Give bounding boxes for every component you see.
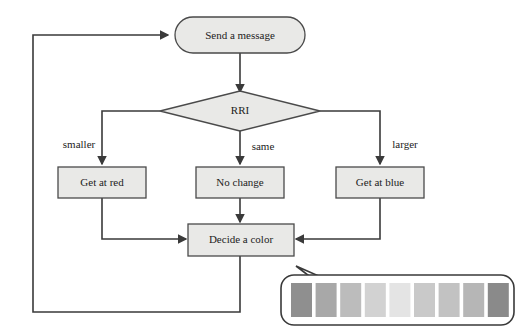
swatch-row [291,283,509,317]
color-swatch-callout [281,266,514,325]
color-swatch-7 [439,283,460,317]
node-no-change: No change [196,167,284,198]
node-no-change-label: No change [216,176,263,188]
node-get-at-blue-label: Get at blue [356,176,404,188]
color-swatch-9 [488,283,509,317]
color-swatch-8 [463,283,484,317]
color-swatch-2 [316,283,337,317]
node-get-at-red: Get at red [58,167,146,198]
edge-label-same: same [252,140,275,152]
edge-label-smaller: smaller [63,138,96,150]
node-send-a-message-label: Send a message [205,29,275,41]
node-rri-decision-label: RRI [231,104,250,116]
node-send-a-message: Send a message [175,17,305,53]
edge-decision-to-left-action [102,111,160,164]
edge-decision-to-right-action [320,111,380,164]
flowchart-figure: Send a message RRI Get at red No change … [0,0,523,333]
edge-left-action-to-merge [102,197,186,239]
color-swatch-6 [414,283,435,317]
edge-right-action-to-merge [296,197,380,239]
color-swatch-4 [365,283,386,317]
node-decide-a-color: Decide a color [188,224,294,256]
flowchart-canvas: Send a message RRI Get at red No change … [0,0,523,333]
node-get-at-red-label: Get at red [80,176,124,188]
node-get-at-blue: Get at blue [336,167,424,198]
node-rri-decision: RRI [160,91,320,131]
color-swatch-5 [389,283,410,317]
edge-label-larger: larger [392,138,418,150]
node-decide-a-color-label: Decide a color [209,233,273,245]
color-swatch-1 [291,283,312,317]
color-swatch-3 [340,283,361,317]
